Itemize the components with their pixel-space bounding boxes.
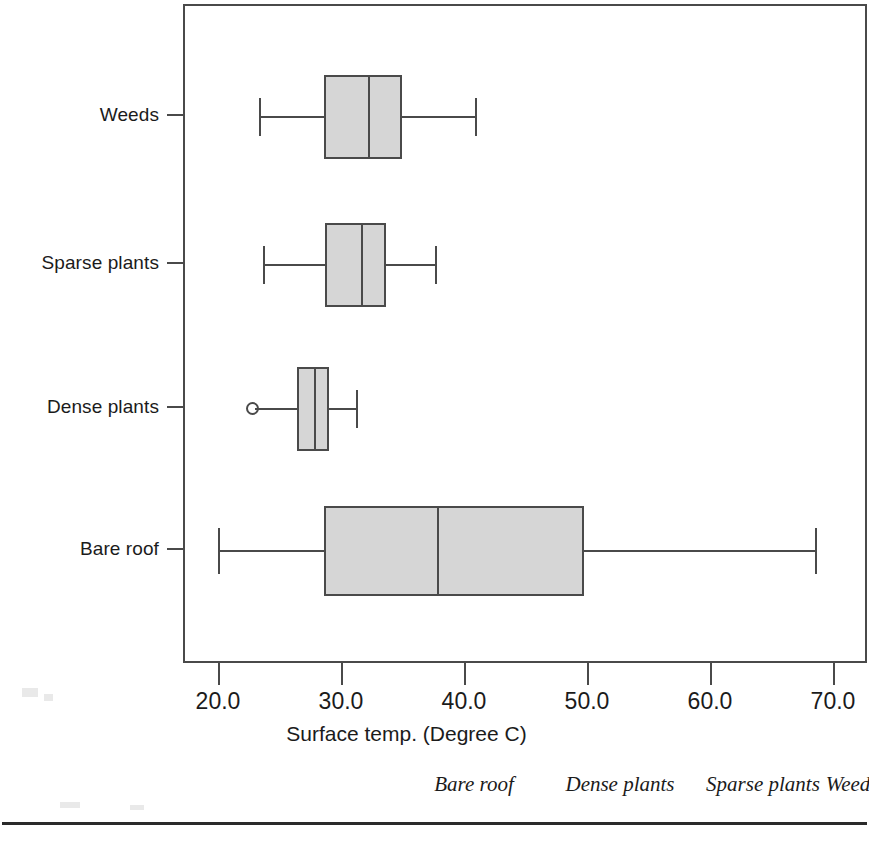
table-header-weed: Weed bbox=[826, 772, 869, 797]
xtick-label-70: 70.0 bbox=[811, 688, 856, 715]
xtick-mark bbox=[587, 663, 589, 685]
clipped-row-label bbox=[16, 828, 21, 842]
table-clipped-row bbox=[0, 828, 869, 842]
scan-artifact bbox=[44, 694, 53, 701]
median-line bbox=[361, 223, 363, 307]
box-iqr bbox=[324, 506, 584, 596]
xtick-mark bbox=[464, 663, 466, 685]
whisker-cap-lower bbox=[218, 528, 220, 574]
xtick-mark bbox=[218, 663, 220, 685]
category-label-dense-plants: Dense plants bbox=[47, 396, 159, 418]
table-header-sparse-plants: Sparse plants bbox=[706, 772, 820, 797]
scan-artifact bbox=[22, 688, 38, 697]
table-header-rule bbox=[2, 822, 867, 825]
whisker-lower bbox=[263, 264, 325, 266]
xtick-label-50: 50.0 bbox=[565, 688, 610, 715]
whisker-cap-lower bbox=[259, 98, 261, 136]
category-tick bbox=[167, 262, 185, 264]
boxplot-figure: Weeds Sparse plants Dense plants Bare ro… bbox=[0, 0, 869, 850]
table-header-bare-roof: Bare roof bbox=[434, 772, 514, 797]
whisker-lower bbox=[259, 116, 324, 118]
table-header-dense-plants: Dense plants bbox=[565, 772, 674, 797]
whisker-cap-upper bbox=[435, 246, 437, 284]
whisker-upper bbox=[402, 116, 475, 118]
whisker-upper bbox=[386, 264, 435, 266]
category-label-sparse-plants: Sparse plants bbox=[42, 252, 159, 274]
median-line bbox=[368, 75, 370, 159]
xtick-label-40: 40.0 bbox=[442, 688, 487, 715]
xtick-mark bbox=[833, 663, 835, 685]
category-label-weeds: Weeds bbox=[100, 104, 159, 126]
category-label-bare-roof: Bare roof bbox=[80, 538, 159, 560]
xtick-label-20: 20.0 bbox=[196, 688, 241, 715]
whisker-lower bbox=[218, 550, 324, 552]
whisker-cap-upper bbox=[356, 390, 358, 428]
whisker-upper bbox=[584, 550, 815, 552]
median-line bbox=[437, 506, 439, 596]
xtick-label-30: 30.0 bbox=[319, 688, 364, 715]
table-fragment: Bare roof Dense plants Sparse plants Wee… bbox=[0, 772, 869, 850]
whisker-cap-lower bbox=[263, 246, 265, 284]
whisker-cap-upper bbox=[815, 528, 817, 574]
xtick-label-60: 60.0 bbox=[688, 688, 733, 715]
whisker-upper bbox=[329, 408, 356, 410]
whisker-cap-upper bbox=[475, 98, 477, 136]
xtick-mark bbox=[710, 663, 712, 685]
category-tick bbox=[167, 406, 185, 408]
x-axis-title-text: Surface temp. (Degree C) bbox=[286, 722, 526, 745]
category-tick bbox=[167, 114, 185, 116]
xtick-mark bbox=[341, 663, 343, 685]
box-iqr bbox=[325, 223, 386, 307]
category-tick bbox=[167, 548, 185, 550]
median-line bbox=[314, 367, 316, 451]
x-axis-title: Surface temp. (Degree C) bbox=[0, 722, 869, 746]
box-iqr bbox=[324, 75, 402, 159]
box-iqr bbox=[297, 367, 329, 451]
plot-area bbox=[183, 4, 867, 663]
table-header-row: Bare roof Dense plants Sparse plants Wee… bbox=[0, 772, 869, 812]
whisker-lower bbox=[255, 408, 297, 410]
